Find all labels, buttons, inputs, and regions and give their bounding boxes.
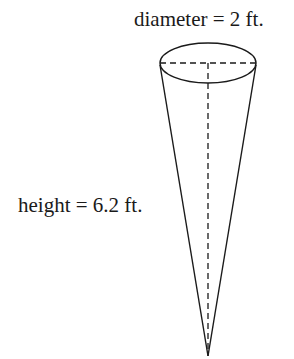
- cone-right-side: [208, 65, 256, 356]
- cone-diagram: diameter = 2 ft. height = 6.2 ft.: [0, 0, 294, 359]
- cone-left-side: [160, 65, 208, 356]
- diameter-label: diameter = 2 ft.: [134, 9, 264, 30]
- height-label: height = 6.2 ft.: [18, 195, 142, 216]
- cone-drawing: [0, 0, 294, 359]
